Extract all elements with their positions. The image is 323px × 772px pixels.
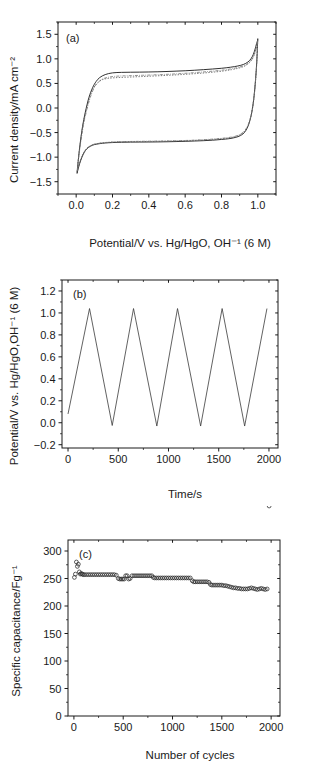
panel-a-cyclic-voltammetry: 0.00.20.40.60.81.0−1.5−1.0−0.50.00.51.01… — [0, 0, 323, 258]
panel-a-xaxis-title: Potential/V vs. Hg/HgO, OH⁻¹ (6 M) — [89, 237, 271, 249]
yaxis-tick-label: 200 — [43, 600, 61, 612]
xaxis-tick-label: 1000 — [156, 453, 180, 465]
xaxis-tick-label: 0.6 — [178, 199, 193, 211]
panel-c-cycling-stability: 0500100015002000050100150200250300 (c) N… — [0, 506, 323, 772]
xaxis-tick-label: 2000 — [259, 721, 283, 733]
xaxis-tick-label: 1000 — [160, 721, 184, 733]
panel-c-yaxis-title: Specific capacitance/Fg⁻¹ — [10, 565, 22, 696]
yaxis-tick-label: −0.5 — [30, 127, 52, 139]
yaxis-tick-label: 0.8 — [40, 329, 55, 341]
xaxis-tick-label: 0 — [71, 721, 77, 733]
yaxis-tick-label: 1.0 — [40, 307, 55, 319]
yaxis-tick-label: 1.2 — [40, 285, 55, 297]
panel-c-xaxis-title: Number of cycles — [146, 749, 235, 761]
xaxis-tick-label: 500 — [109, 453, 127, 465]
xaxis-tick-label: 0 — [65, 453, 71, 465]
panel-a-svg: 0.00.20.40.60.81.0−1.5−1.0−0.50.00.51.01… — [0, 0, 323, 258]
yaxis-tick-label: 50 — [49, 683, 61, 695]
capacitance-points — [73, 506, 272, 591]
yaxis-tick-label: 250 — [43, 573, 61, 585]
cv-curve — [77, 40, 258, 172]
yaxis-tick-label: 100 — [43, 655, 61, 667]
yaxis-tick-label: 1.0 — [36, 53, 51, 65]
yaxis-tick-label: 0.0 — [36, 102, 51, 114]
charge-discharge-curve — [68, 309, 267, 426]
panel-b-xaxis-title: Time/s — [168, 488, 202, 500]
panel-a-yaxis-title: Current density/mA cm⁻² — [8, 57, 20, 183]
panel-b-tag: (b) — [73, 288, 86, 300]
data-point — [267, 506, 271, 508]
yaxis-tick-label: 150 — [43, 628, 61, 640]
panel-a-tag: (a) — [66, 32, 79, 44]
figure-container: 0.00.20.40.60.81.0−1.5−1.0−0.50.00.51.01… — [0, 0, 323, 772]
xaxis-tick-label: 1500 — [206, 453, 230, 465]
yaxis-tick-label: 0 — [55, 710, 61, 722]
yaxis-tick-label: −0.2 — [34, 439, 56, 451]
panel-c-svg: 0500100015002000050100150200250300 (c) N… — [0, 506, 323, 772]
xaxis-tick-label: 0.0 — [69, 199, 84, 211]
xaxis-tick-label: 500 — [114, 721, 132, 733]
panel-b-yaxis-title: Potential/V vs. Hg/HgO,OH⁻¹ (6 M) — [8, 287, 20, 466]
cv-curve — [77, 39, 258, 174]
xaxis-tick-label: 0.4 — [141, 199, 156, 211]
xaxis-tick-label: 1.0 — [250, 199, 265, 211]
xaxis-tick-label: 1500 — [210, 721, 234, 733]
plot-frame — [58, 22, 276, 194]
yaxis-tick-label: 0.6 — [40, 351, 55, 363]
plot-frame — [68, 540, 280, 716]
yaxis-tick-label: 1.5 — [36, 28, 51, 40]
xaxis-tick-label: 0.8 — [214, 199, 229, 211]
yaxis-tick-label: 0.4 — [40, 373, 55, 385]
panel-b-charge-discharge: 0500100015002000−0.20.00.20.40.60.81.01.… — [0, 258, 323, 506]
yaxis-tick-label: 0.2 — [40, 395, 55, 407]
yaxis-tick-label: 0.0 — [40, 417, 55, 429]
yaxis-tick-label: 0.5 — [36, 77, 51, 89]
yaxis-tick-label: −1.5 — [30, 176, 52, 188]
yaxis-tick-label: −1.0 — [30, 151, 52, 163]
panel-c-tag: (c) — [79, 548, 92, 560]
cv-curve — [77, 40, 257, 171]
xaxis-tick-label: 2000 — [257, 453, 281, 465]
xaxis-tick-label: 0.2 — [105, 199, 120, 211]
panel-b-svg: 0500100015002000−0.20.00.20.40.60.81.01.… — [0, 258, 323, 506]
yaxis-tick-label: 300 — [43, 545, 61, 557]
